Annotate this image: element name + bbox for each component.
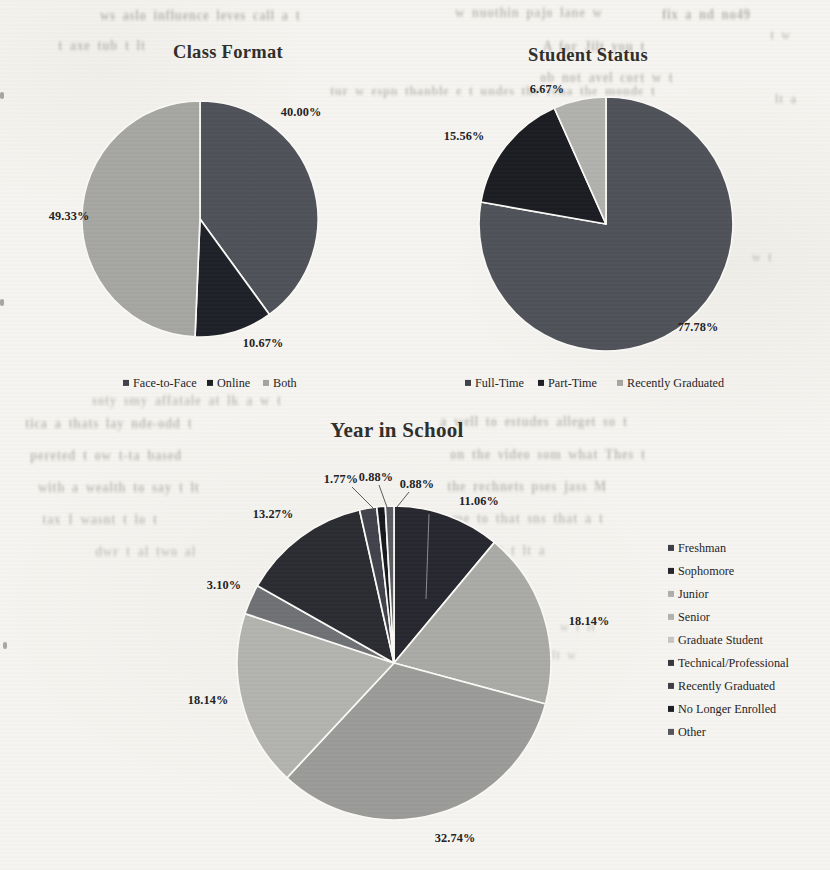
legend-marker-part-time <box>538 380 544 386</box>
legend-label-part-time: Part-Time <box>548 377 597 389</box>
chart-title-student-status: Student Status <box>528 45 648 66</box>
legend-label-recently-graduated: Recently Graduated <box>627 377 724 389</box>
legend-marker-technical-professional <box>668 660 674 666</box>
legend-item-junior: Junior <box>668 588 708 600</box>
legend-label-recently-graduated: Recently Graduated <box>678 680 775 692</box>
legend-item-part-time: Part-Time <box>538 377 597 389</box>
scanned-page: ws aslo influence leves call a tw nuothi… <box>0 0 830 870</box>
legend-marker-online <box>207 380 213 386</box>
chart-title-year-in-school: Year in School <box>330 418 463 443</box>
year-in-school-value-label-no-longer-enrolled: 0.88% <box>359 470 393 485</box>
legend-label-technical-professional: Technical/Professional <box>678 657 789 669</box>
legend-label-junior: Junior <box>678 588 708 600</box>
legend-item-graduate-student: Graduate Student <box>668 634 763 646</box>
legend-label-graduate-student: Graduate Student <box>678 634 763 646</box>
legend-label-both: Both <box>273 377 297 389</box>
legend-label-full-time: Full-Time <box>475 377 524 389</box>
labels-layer: Class Format Student Status Year in Scho… <box>0 0 830 870</box>
legend-item-both: Both <box>263 377 297 389</box>
year-in-school-value-label-freshman: 11.06% <box>459 494 499 509</box>
legend-marker-freshman <box>668 545 674 551</box>
legend-item-online: Online <box>207 377 250 389</box>
legend-item-full-time: Full-Time <box>465 377 524 389</box>
student-status-value-label-full-time: 77.78% <box>678 320 719 335</box>
legend-item-freshman: Freshman <box>668 542 726 554</box>
legend-item-other: Other <box>668 726 706 738</box>
class-format-value-label-face-to-face: 40.00% <box>281 105 322 120</box>
legend-marker-no-longer-enrolled <box>668 706 674 712</box>
legend-item-sophomore: Sophomore <box>668 565 734 577</box>
legend-label-freshman: Freshman <box>678 542 726 554</box>
legend-label-no-longer-enrolled: No Longer Enrolled <box>678 703 776 715</box>
legend-marker-full-time <box>465 380 471 386</box>
chart-title-class-format: Class Format <box>173 42 283 63</box>
legend-marker-sophomore <box>668 568 674 574</box>
year-in-school-value-label-junior: 32.74% <box>435 831 476 846</box>
year-in-school-value-label-recently-graduated: 1.77% <box>324 472 358 487</box>
legend-label-sophomore: Sophomore <box>678 565 734 577</box>
legend-label-online: Online <box>217 377 250 389</box>
legend-marker-junior <box>668 591 674 597</box>
legend-item-recently-graduated: Recently Graduated <box>668 680 775 692</box>
year-in-school-value-label-other: 0.88% <box>400 477 434 492</box>
legend-item-senior: Senior <box>668 611 710 623</box>
legend-label-other: Other <box>678 726 706 738</box>
legend-item-face-to-face: Face-to-Face <box>123 377 197 389</box>
year-in-school-value-label-graduate-student: 3.10% <box>207 578 241 593</box>
legend-marker-senior <box>668 614 674 620</box>
legend-marker-other <box>668 729 674 735</box>
class-format-value-label-both: 49.33% <box>49 209 90 224</box>
student-status-value-label-recently-graduated: 6.67% <box>530 82 564 97</box>
year-in-school-value-label-sophomore: 18.14% <box>569 614 610 629</box>
year-in-school-value-label-technical-professional: 13.27% <box>253 507 294 522</box>
legend-marker-recently-graduated <box>617 380 623 386</box>
legend-marker-face-to-face <box>123 380 129 386</box>
student-status-value-label-part-time: 15.56% <box>444 129 485 144</box>
legend-marker-graduate-student <box>668 637 674 643</box>
class-format-value-label-online: 10.67% <box>243 336 284 351</box>
year-in-school-value-label-senior: 18.14% <box>188 693 229 708</box>
legend-item-no-longer-enrolled: No Longer Enrolled <box>668 703 776 715</box>
legend-label-senior: Senior <box>678 611 710 623</box>
legend-marker-recently-graduated <box>668 683 674 689</box>
legend-item-technical-professional: Technical/Professional <box>668 657 789 669</box>
legend-label-face-to-face: Face-to-Face <box>133 377 197 389</box>
legend-marker-both <box>263 380 269 386</box>
legend-item-recently-graduated: Recently Graduated <box>617 377 724 389</box>
